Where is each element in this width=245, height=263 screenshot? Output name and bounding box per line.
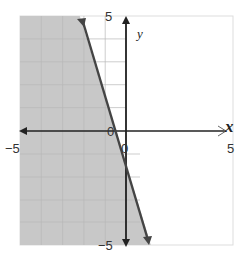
x-max-label: 5 — [227, 141, 234, 156]
y-max-label: 5 — [105, 9, 112, 24]
x-axis-label: x — [224, 117, 234, 136]
origin-label-b: 0 — [121, 141, 128, 156]
y-axis-label: y — [135, 26, 143, 41]
graph: 5 −5 −5 5 0 0 y x — [0, 0, 245, 263]
y-min-label: −5 — [98, 238, 113, 253]
x-min-label: −5 — [5, 141, 20, 156]
origin-label-a: 0 — [107, 124, 114, 139]
